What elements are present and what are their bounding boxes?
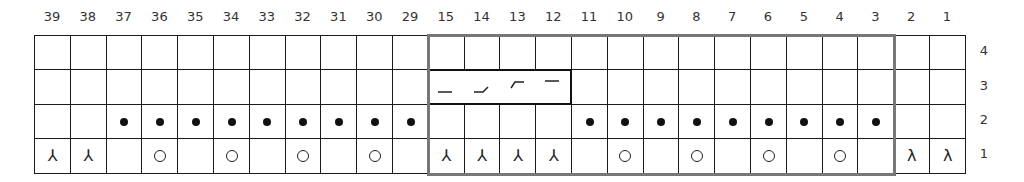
chart-cell: ⅄ bbox=[34, 138, 71, 174]
chart-cell bbox=[320, 138, 357, 174]
chart-cell: λ bbox=[929, 138, 966, 174]
column-number-label: 14 bbox=[464, 9, 500, 24]
chart-cell bbox=[929, 35, 966, 71]
chart-cell bbox=[893, 35, 930, 71]
chart-cell bbox=[571, 104, 608, 140]
chart-cell bbox=[714, 69, 751, 105]
chart-cell bbox=[822, 35, 859, 71]
chart-cell bbox=[822, 69, 859, 105]
ssk-decrease-icon: ⅄ bbox=[477, 148, 487, 164]
chart-cell bbox=[607, 35, 644, 71]
yarn-over-circle-icon bbox=[369, 150, 381, 162]
chart-cell: ⅄ bbox=[464, 138, 501, 174]
purl-dot-icon bbox=[371, 118, 379, 126]
chart-cell: ⅄ bbox=[535, 138, 572, 174]
column-number-label: 32 bbox=[285, 9, 321, 24]
chart-cell bbox=[392, 138, 429, 174]
chart-cell: λ bbox=[893, 138, 930, 174]
chart-cell bbox=[285, 69, 322, 105]
chart-cell bbox=[714, 138, 751, 174]
column-number-label: 29 bbox=[392, 9, 428, 24]
column-number-label: 31 bbox=[320, 9, 356, 24]
chart-cell bbox=[893, 69, 930, 105]
purl-dot-icon bbox=[335, 118, 343, 126]
chart-cell bbox=[643, 138, 680, 174]
knitting-chart: 3938373635343332313029151413121110987654… bbox=[0, 0, 1024, 182]
column-number-label: 1 bbox=[929, 9, 965, 24]
chart-cell bbox=[320, 104, 357, 140]
chart-cell bbox=[857, 138, 894, 174]
column-number-label: 15 bbox=[428, 9, 464, 24]
chart-cell bbox=[106, 35, 143, 71]
purl-dot-icon bbox=[621, 118, 629, 126]
column-number-label: 8 bbox=[678, 9, 714, 24]
chart-cell bbox=[571, 69, 608, 105]
chart-cell bbox=[249, 35, 286, 71]
chart-cell bbox=[607, 138, 644, 174]
cable-lines-icon bbox=[428, 69, 573, 105]
chart-cell bbox=[643, 69, 680, 105]
column-number-label: 9 bbox=[643, 9, 679, 24]
row-number-label: 1 bbox=[976, 146, 992, 161]
chart-cell bbox=[714, 35, 751, 71]
chart-cell bbox=[392, 69, 429, 105]
chart-cell bbox=[786, 138, 823, 174]
chart-cell bbox=[786, 104, 823, 140]
row-number-label: 4 bbox=[976, 43, 992, 58]
yarn-over-circle-icon bbox=[691, 150, 703, 162]
chart-cell bbox=[428, 35, 465, 71]
chart-cell bbox=[392, 104, 429, 140]
row-number-label: 2 bbox=[976, 112, 992, 127]
purl-dot-icon bbox=[192, 118, 200, 126]
chart-cell bbox=[893, 104, 930, 140]
chart-cell bbox=[750, 104, 787, 140]
chart-cell bbox=[857, 35, 894, 71]
chart-cell bbox=[213, 69, 250, 105]
chart-cell bbox=[643, 35, 680, 71]
chart-cell bbox=[750, 138, 787, 174]
chart-cell bbox=[678, 35, 715, 71]
chart-cell bbox=[249, 104, 286, 140]
chart-cell bbox=[106, 69, 143, 105]
chart-cell bbox=[678, 138, 715, 174]
column-number-label: 36 bbox=[141, 9, 177, 24]
chart-cell bbox=[929, 104, 966, 140]
chart-cell bbox=[213, 104, 250, 140]
chart-cell bbox=[34, 35, 71, 71]
purl-dot-icon bbox=[657, 118, 665, 126]
chart-cell bbox=[750, 35, 787, 71]
chart-cell bbox=[392, 35, 429, 71]
chart-cell bbox=[356, 138, 393, 174]
chart-cell bbox=[535, 104, 572, 140]
chart-cell bbox=[571, 35, 608, 71]
purl-dot-icon bbox=[872, 118, 880, 126]
purl-dot-icon bbox=[407, 118, 415, 126]
chart-cell bbox=[285, 138, 322, 174]
chart-cell bbox=[464, 35, 501, 71]
chart-cell bbox=[714, 104, 751, 140]
chart-cell bbox=[285, 104, 322, 140]
column-number-label: 30 bbox=[356, 9, 392, 24]
column-number-label: 33 bbox=[249, 9, 285, 24]
chart-cell bbox=[428, 104, 465, 140]
chart-cell bbox=[857, 69, 894, 105]
purl-dot-icon bbox=[586, 118, 594, 126]
chart-cell bbox=[70, 104, 107, 140]
chart-cell bbox=[607, 104, 644, 140]
chart-cell bbox=[177, 35, 214, 71]
chart-cell bbox=[535, 35, 572, 71]
column-number-label: 10 bbox=[607, 9, 643, 24]
column-number-label: 38 bbox=[70, 9, 106, 24]
chart-cell bbox=[464, 104, 501, 140]
column-number-label: 12 bbox=[535, 9, 571, 24]
purl-dot-icon bbox=[156, 118, 164, 126]
chart-cell bbox=[70, 69, 107, 105]
ssk-decrease-icon: ⅄ bbox=[549, 148, 559, 164]
ssk-decrease-icon: ⅄ bbox=[48, 148, 58, 164]
yarn-over-circle-icon bbox=[226, 150, 238, 162]
chart-cell: ⅄ bbox=[499, 138, 536, 174]
purl-dot-icon bbox=[729, 118, 737, 126]
chart-cell bbox=[822, 138, 859, 174]
yarn-over-circle-icon bbox=[297, 150, 309, 162]
k2tog-decrease-icon: λ bbox=[943, 148, 952, 164]
